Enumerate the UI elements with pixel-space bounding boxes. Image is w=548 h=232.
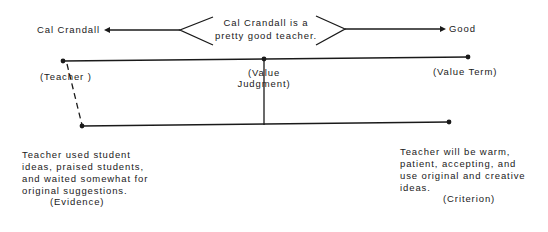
criterion-node-dot: [447, 120, 452, 125]
right-arrowhead-icon: [440, 26, 446, 32]
statement-line-2: pretty good teacher.: [206, 30, 326, 42]
statement-line-1: Cal Crandall is a: [206, 17, 326, 29]
right-term-label: Good: [449, 23, 476, 35]
criterion-line: ideas.: [400, 182, 431, 194]
evidence-node-dot: [80, 124, 85, 129]
criterion-label: (Criterion): [443, 193, 495, 205]
value-term-node-dot: [466, 55, 471, 60]
bottom-structure-line: [82, 122, 449, 126]
criterion-line: Teacher will be warm,: [400, 146, 510, 158]
evidence-line: and waited somewhat for: [22, 173, 148, 185]
teacher-label: (Teacher ): [40, 71, 92, 83]
left-arrowhead-icon: [104, 27, 110, 33]
evidence-label: (Evidence): [50, 196, 104, 208]
criterion-line: use original and creative: [400, 170, 525, 182]
criterion-line: patient, accepting, and: [400, 158, 516, 170]
evidence-line: Teacher used student: [22, 149, 131, 161]
value-judgment-label-line-2: Judgment): [224, 78, 304, 90]
left-term-label: Cal Crandall: [37, 24, 100, 36]
value-judgment-node-dot: [262, 57, 267, 62]
teacher-node-dot: [61, 59, 66, 64]
evidence-line: ideas, praised students,: [22, 161, 144, 173]
value-term-label: (Value Term): [433, 66, 497, 78]
evidence-line: original suggestions.: [22, 185, 128, 197]
